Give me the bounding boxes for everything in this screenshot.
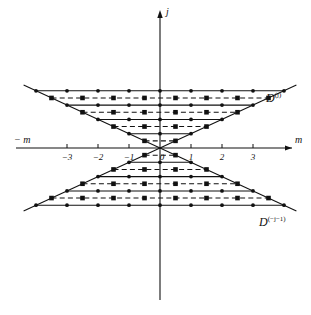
upper-cone-rows-point: [49, 96, 54, 101]
lower-cone-rows-point: [158, 175, 162, 179]
upper-cone-rows-point: [142, 124, 147, 129]
lower-cone-rows-point: [127, 203, 131, 207]
lower-cone-rows-point: [235, 196, 240, 201]
upper-cone-rows-point: [220, 118, 224, 122]
lower-cone-rows-point: [251, 189, 255, 193]
x-axis-arrowhead: [285, 145, 292, 150]
lower-cone-rows-point: [173, 167, 178, 172]
upper-cone-rows-point: [189, 132, 193, 136]
upper-cone-rows-point: [189, 103, 193, 107]
upper-cone-rows-point: [189, 118, 193, 122]
upper-cone-rows-point: [204, 96, 209, 101]
upper-cone-rows-point: [80, 96, 85, 101]
upper-region-label: D(j): [266, 91, 281, 106]
lower-cone-rows-point: [80, 181, 85, 186]
upper-cone-rows-point: [142, 139, 147, 144]
upper-cone-rows-point: [158, 118, 162, 122]
upper-cone-rows-point: [220, 89, 224, 93]
lower-region-label: D(−j−1): [259, 215, 286, 230]
upper-cone-rows-point: [235, 96, 240, 101]
lower-cone-rows-point: [127, 175, 131, 179]
upper-cone-rows-point: [127, 103, 131, 107]
upper-cone-rows-point: [173, 96, 178, 101]
lower-cone-rows-point: [204, 181, 209, 186]
lower-cone-rows-point: [204, 196, 209, 201]
upper-cone-rows-point: [65, 89, 69, 93]
upper-cone-rows-point: [204, 124, 209, 129]
x-tick-label-0: 0: [155, 152, 169, 162]
lower-cone-rows-point: [96, 189, 100, 193]
x-tick-label-2: 2: [215, 152, 229, 162]
upper-left-edge: [24, 85, 160, 148]
lower-cone-rows-point: [96, 203, 100, 207]
lower-cone-rows-point: [158, 189, 162, 193]
lower-cone-rows-point: [65, 189, 69, 193]
upper-cone-rows-point: [34, 89, 38, 93]
upper-cone-rows-point: [282, 89, 286, 93]
lower-cone-rows-point: [189, 175, 193, 179]
lower-cone-rows-point: [189, 189, 193, 193]
upper-cone-rows-point: [251, 89, 255, 93]
lower-cone-rows-point: [189, 203, 193, 207]
upper-cone-rows-point: [173, 139, 178, 144]
lower-cone-rows-point: [173, 153, 178, 158]
upper-cone-rows-point: [235, 110, 240, 115]
upper-cone-rows-point: [127, 132, 131, 136]
lower-cone-rows-point: [80, 196, 85, 201]
lower-cone-rows-point: [127, 189, 131, 193]
upper-cone-rows-point: [158, 132, 162, 136]
lower-cone-rows-point: [266, 196, 271, 201]
upper-cone-rows-point: [80, 110, 85, 115]
lower-cone-rows-point: [220, 175, 224, 179]
upper-cone-rows-point: [65, 103, 69, 107]
lower-region-base: D: [259, 215, 268, 229]
lower-cone-rows-point: [282, 203, 286, 207]
x-axis-label-right: m: [295, 134, 302, 145]
upper-cone-rows-point: [96, 103, 100, 107]
y-axis-arrowhead: [157, 10, 162, 18]
lower-cone-rows-point: [142, 153, 147, 158]
upper-cone-rows-point: [111, 110, 116, 115]
lower-cone-rows-point: [220, 189, 224, 193]
y-axis-label: j: [166, 6, 169, 17]
upper-region-base: D: [266, 91, 275, 105]
upper-cone-rows-point: [189, 89, 193, 93]
lower-cone-rows-point: [111, 196, 116, 201]
lower-cone-rows-point: [34, 203, 38, 207]
x-tick-label--2: −2: [91, 152, 105, 162]
lower-cone-rows-point: [158, 203, 162, 207]
lower-cone-rows-point: [235, 181, 240, 186]
upper-cone-rows-point: [142, 96, 147, 101]
upper-region-superscript: (j): [275, 91, 282, 99]
lower-cone-rows-point: [49, 196, 54, 201]
x-tick-label--3: −3: [60, 152, 74, 162]
upper-cone-rows-point: [111, 124, 116, 129]
lower-region-superscript: (−j−1): [268, 215, 286, 223]
lower-cone-rows-point: [251, 203, 255, 207]
upper-cone-rows-point: [142, 110, 147, 115]
x-tick-label-1: 1: [184, 152, 198, 162]
upper-cone-rows-point: [158, 103, 162, 107]
lower-cone-rows-point: [173, 181, 178, 186]
lower-cone-rows-point: [220, 203, 224, 207]
x-axis-label-left: − m: [14, 134, 30, 145]
lower-cone-rows-point: [204, 167, 209, 172]
upper-cone-rows-point: [158, 89, 162, 93]
upper-cone-rows-point: [111, 96, 116, 101]
upper-cone-rows-point: [251, 103, 255, 107]
upper-cone-rows-point: [127, 118, 131, 122]
lower-cone-rows-point: [111, 167, 116, 172]
upper-cone-rows-point: [204, 110, 209, 115]
lower-cone-rows-point: [173, 196, 178, 201]
lower-cone-rows-point: [142, 181, 147, 186]
upper-cone-rows-point: [127, 89, 131, 93]
x-tick-label-3: 3: [246, 152, 260, 162]
lower-cone-rows-point: [142, 167, 147, 172]
lower-cone-rows-point: [96, 175, 100, 179]
upper-cone-rows-point: [173, 124, 178, 129]
upper-cone-rows-point: [220, 103, 224, 107]
upper-cone-rows-point: [96, 118, 100, 122]
lower-cone-rows-point: [111, 181, 116, 186]
lower-cone-rows-point: [65, 203, 69, 207]
upper-cone-rows-point: [173, 110, 178, 115]
